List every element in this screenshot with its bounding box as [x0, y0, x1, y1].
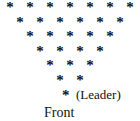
- asterisk-marker: *: [70, 44, 90, 59]
- asterisk-marker: *: [50, 73, 70, 88]
- formation-row-6: * *: [0, 73, 140, 88]
- asterisk-marker: *: [0, 0, 20, 15]
- asterisk-marker: *: [50, 15, 70, 30]
- formation-row-1: * * * * * * *: [0, 0, 140, 15]
- asterisk-marker: *: [50, 44, 70, 59]
- asterisk-marker: *: [120, 0, 140, 15]
- asterisk-marker: *: [20, 0, 40, 15]
- asterisk-marker: *: [40, 29, 60, 44]
- asterisk-marker: *: [80, 0, 100, 15]
- asterisk-marker: *: [60, 29, 80, 44]
- asterisk-marker: *: [100, 29, 120, 44]
- asterisk-marker: *: [70, 15, 90, 30]
- asterisk-marker: *: [30, 44, 50, 59]
- formation-row-5: * * *: [0, 58, 140, 73]
- leader-label: (Leader): [76, 87, 121, 103]
- asterisk-marker: *: [90, 44, 110, 59]
- asterisk-marker: *: [60, 0, 80, 15]
- formation-row-4: * * * *: [0, 44, 140, 59]
- asterisk-marker: *: [90, 15, 110, 30]
- asterisk-marker: *: [70, 73, 90, 88]
- asterisk-marker: *: [80, 58, 100, 73]
- asterisk-marker: *: [40, 58, 60, 73]
- leader-asterisk-marker: *: [62, 87, 73, 103]
- asterisk-marker: *: [40, 0, 60, 15]
- asterisk-marker: *: [10, 15, 30, 30]
- asterisk-marker: *: [60, 58, 80, 73]
- asterisk-marker: *: [110, 15, 130, 30]
- asterisk-marker: *: [30, 15, 50, 30]
- front-label: Front: [44, 105, 74, 120]
- asterisk-marker: *: [100, 0, 120, 15]
- formation-row-7-leader: * (Leader): [0, 87, 140, 103]
- asterisk-marker: *: [80, 29, 100, 44]
- formation-row-2: * * * * * *: [0, 15, 140, 30]
- formation-row-3: * * * * *: [0, 29, 140, 44]
- asterisk-formation: * * * * * * * * * * * * * * * * * * * * …: [0, 0, 140, 121]
- asterisk-marker: *: [20, 29, 40, 44]
- front-caption-row: Front: [0, 103, 140, 121]
- formation-figure: * * * * * * * * * * * * * * * * * * * * …: [0, 0, 140, 121]
